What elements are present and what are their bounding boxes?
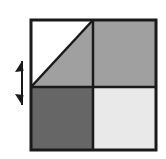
quadrant-bottom-right xyxy=(93,87,156,150)
diagram-svg xyxy=(0,0,166,159)
quadrant-bottom-left xyxy=(31,87,93,150)
figure-container: Square divided into four quadrants with … xyxy=(0,0,166,159)
quadrant-top-right xyxy=(93,20,156,87)
